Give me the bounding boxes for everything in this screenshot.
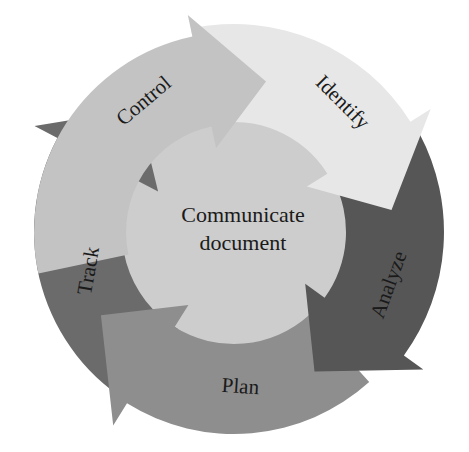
center-label-line1: Communicate	[181, 202, 304, 227]
label-plan: Plan	[221, 373, 260, 400]
center-label-line2: document	[200, 230, 287, 255]
cycle-diagram: Control Identify Analyze Plan Track Comm…	[0, 0, 469, 452]
